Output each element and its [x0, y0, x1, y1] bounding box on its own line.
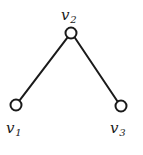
edge-v2-v1 [20, 38, 67, 100]
node-label-v1-sub: 1 [15, 127, 22, 138]
node-label-v1-base: v [6, 119, 15, 137]
node-v3[interactable] [116, 101, 127, 112]
node-label-v3: v3 [110, 121, 125, 136]
node-label-v2-base: v [61, 6, 70, 24]
node-label-v3-sub: 3 [119, 127, 126, 138]
node-label-v2: v2 [61, 8, 76, 23]
graph-diagram: v2 v1 v3 [0, 0, 143, 155]
node-v2[interactable] [66, 28, 77, 39]
node-label-v3-base: v [110, 119, 119, 137]
node-label-v1: v1 [6, 121, 21, 136]
node-label-v2-sub: 2 [70, 14, 77, 25]
edge-v2-v3 [75, 38, 118, 101]
node-v1[interactable] [11, 100, 22, 111]
edge-group [20, 38, 118, 101]
node-group [11, 28, 127, 112]
